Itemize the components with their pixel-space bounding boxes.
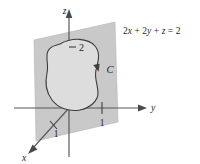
y-axis-arrowhead: [138, 105, 147, 112]
curve-c-label: C: [106, 64, 114, 75]
diagram-canvas: z y x 2 1 1 C 2x+2y+z=2: [0, 0, 200, 164]
equation-term3-var: z: [161, 26, 166, 36]
equation-rhs: 2: [176, 26, 181, 36]
z-axis-label: z: [62, 6, 67, 16]
equation-equals: =: [168, 26, 173, 36]
equation-plus1: +: [134, 26, 139, 36]
equation-term1-var: x: [127, 26, 133, 36]
figure-container: z y x 2 1 1 C 2x+2y+z=2: [0, 0, 200, 164]
curve-region-fill: [46, 39, 98, 110]
x-axis-arrowhead: [28, 145, 37, 154]
x-intercept-label: 1: [54, 129, 59, 139]
equation-plus2: +: [154, 26, 159, 36]
equation-term2-var: y: [146, 26, 152, 36]
x-axis-label: x: [21, 153, 27, 163]
y-intercept-label: 1: [100, 118, 105, 128]
z-intercept-label: 2: [79, 42, 84, 53]
y-axis-label: y: [150, 103, 156, 113]
z-axis-arrowhead: [66, 9, 73, 18]
plane-equation: 2x+2y+z=2: [123, 26, 181, 36]
